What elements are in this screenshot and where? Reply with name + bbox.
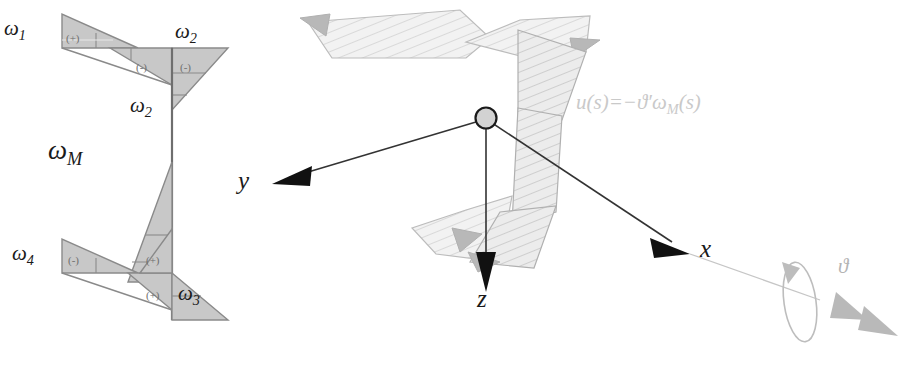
axis-label-x: x — [700, 236, 711, 261]
label-omega3: ω3 — [178, 283, 200, 307]
rotation-ellipse — [779, 260, 822, 344]
formula-minus: − — [623, 90, 637, 114]
formula-theta-prime: ϑ′ — [637, 90, 652, 114]
sign-bottom-left: (-) — [68, 255, 79, 266]
sign-bottom-mid: (+) — [146, 255, 160, 266]
sign-top-mid: (-) — [136, 62, 147, 73]
figure-canvas: ω1 ω2 ω2 ωM ω4 ω3 (+) (-) (-) (-) (+) (+… — [0, 0, 907, 368]
formula-equals: = — [609, 90, 623, 114]
label-omega1: ω1 — [4, 18, 26, 42]
left-warping-diagram — [62, 14, 228, 320]
sign-top-left: (+) — [66, 33, 80, 44]
right-beam-diagram — [272, 10, 898, 344]
sign-bottom-right: (+) — [146, 290, 160, 301]
label-omega2-mid: ω2 — [130, 95, 152, 119]
label-omegaM: ωM — [48, 137, 82, 168]
omega2-left-triangle — [62, 48, 172, 85]
rotation-axis-arrowheads — [830, 292, 898, 336]
rotation-label-theta: ϑ — [838, 256, 848, 277]
formula-omega-m: ωM — [652, 90, 679, 114]
formula-arg: (s) — [679, 90, 701, 114]
axis-y-arrow — [272, 119, 486, 186]
figure-vector-layer — [0, 0, 907, 368]
warping-displacement-formula: u(s)=−ϑ′ωM(s) — [576, 92, 701, 116]
axis-label-z: z — [477, 286, 487, 311]
hatched-wing-upper-left — [300, 10, 490, 58]
label-omega4: ω4 — [12, 243, 34, 267]
formula-lhs: u(s) — [576, 90, 609, 114]
omega2-right-triangle — [172, 48, 228, 110]
label-omega2-top: ω2 — [175, 21, 197, 45]
sign-top-right: (-) — [180, 62, 191, 73]
axis-label-y: y — [238, 168, 249, 193]
origin-node — [476, 108, 497, 129]
